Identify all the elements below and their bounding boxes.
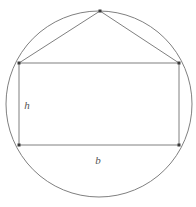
vertex-top-left-marker — [18, 62, 21, 65]
height-label: h — [24, 99, 30, 111]
vertex-bottom-left-marker — [18, 144, 21, 147]
base-label: b — [95, 154, 101, 166]
figure-canvas: h b — [0, 0, 196, 207]
vertex-apex-marker — [99, 10, 102, 13]
vertex-bottom-right-marker — [178, 144, 181, 147]
triangle-left-leg — [19, 11, 100, 63]
triangle-right-leg — [100, 11, 179, 63]
vertex-top-right-marker — [178, 62, 181, 65]
inscribed-rectangle — [19, 63, 179, 145]
geometry-svg: h b — [0, 0, 196, 207]
circumscribed-circle — [6, 11, 192, 197]
